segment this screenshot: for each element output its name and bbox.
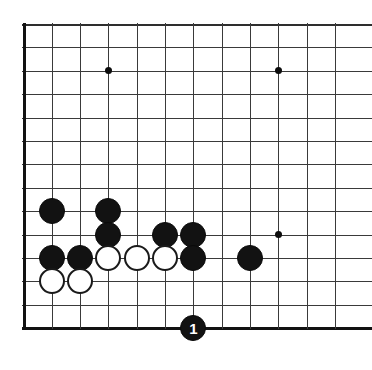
- stone-black[interactable]: [39, 245, 65, 271]
- grid-line-vertical-8: [250, 23, 251, 329]
- grid-line-horizontal-2: [22, 71, 372, 72]
- grid-line-vertical-4: [137, 23, 138, 329]
- grid-line-horizontal-5: [22, 141, 372, 142]
- board-edge-left: [23, 23, 26, 329]
- star-point-upper-right: [275, 67, 282, 74]
- stone-black[interactable]: [237, 245, 263, 271]
- grid-line-vertical-5: [165, 23, 166, 329]
- grid-line-horizontal-6: [22, 164, 372, 165]
- stone-black[interactable]: [152, 222, 178, 248]
- stone-black[interactable]: [39, 198, 65, 224]
- stone-black[interactable]: [95, 222, 121, 248]
- stone-white[interactable]: [124, 245, 150, 271]
- stone-black[interactable]: [180, 245, 206, 271]
- grid-line-horizontal-1: [22, 47, 372, 48]
- stone-white[interactable]: [67, 268, 93, 294]
- stone-black[interactable]: [180, 222, 206, 248]
- grid-line-horizontal-12: [22, 305, 372, 306]
- stone-black[interactable]: [67, 245, 93, 271]
- go-board-figure: 1: [0, 0, 372, 370]
- stone-white[interactable]: [152, 245, 178, 271]
- stone-black[interactable]: [95, 198, 121, 224]
- go-board-surface[interactable]: 1: [0, 0, 372, 370]
- grid-line-horizontal-4: [22, 118, 372, 119]
- grid-line-horizontal-3: [22, 94, 372, 95]
- stone-white[interactable]: [39, 268, 65, 294]
- star-point-lower-right: [275, 231, 282, 238]
- grid-line-horizontal-8: [22, 211, 372, 212]
- grid-line-horizontal-7: [22, 188, 372, 189]
- stone-black-move-1[interactable]: 1: [180, 315, 206, 341]
- grid-line-vertical-6: [193, 23, 194, 329]
- star-point-upper-left: [105, 67, 112, 74]
- stone-move-number: 1: [189, 321, 197, 336]
- grid-line-vertical-11: [335, 23, 336, 329]
- board-edge-top: [22, 24, 372, 26]
- grid-line-vertical-10: [307, 23, 308, 329]
- stone-white[interactable]: [95, 245, 121, 271]
- grid-line-vertical-7: [222, 23, 223, 329]
